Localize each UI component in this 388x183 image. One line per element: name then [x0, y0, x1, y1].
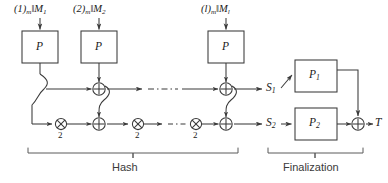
state-output-label-s2: S2 [266, 117, 276, 130]
figure-canvas: (1)m‖M1 (2)m‖M2 (l)m‖Ml P P P 2 2 2 S1 S… [0, 0, 388, 183]
final-box-label-p1: P1 [309, 69, 320, 82]
doubling-label-2: 2 [135, 131, 140, 140]
hash-brace [28, 148, 238, 158]
message-input-label-2: (2)m‖M2 [73, 4, 106, 16]
state-output-label-s1: S1 [266, 82, 276, 95]
final-box-label-p2: P2 [309, 117, 320, 130]
tag-output-label: T [375, 117, 381, 129]
hash-section-label: Hash [112, 161, 138, 173]
doubling-label-3: 2 [193, 131, 198, 140]
permutation-box-label-l: P [222, 41, 229, 53]
message-input-label-l: (l)m‖Ml [201, 4, 230, 16]
p1-output-to-xor [337, 70, 358, 116]
finalization-section-label: Finalization [283, 161, 339, 173]
permutation-box-label-2: P [95, 41, 102, 53]
message-input-label-1: (1)m‖M1 [14, 4, 47, 16]
doubling-label-1: 2 [58, 131, 63, 140]
finalization-brace [268, 148, 363, 158]
diagram-svg [0, 0, 388, 183]
permutation-box-label-1: P [36, 41, 43, 53]
p1-output-s-curve [32, 74, 47, 124]
s1-to-p1-arrow [281, 75, 292, 88]
